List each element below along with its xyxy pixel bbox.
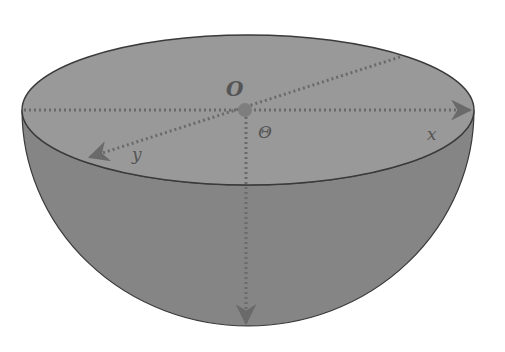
- origin-label: O: [226, 77, 244, 101]
- y-axis-label: y: [131, 144, 142, 164]
- angle-label: Θ: [258, 122, 272, 142]
- x-axis-label: x: [427, 124, 437, 144]
- origin-point: [238, 103, 252, 117]
- hemisphere-diagram: O Θ x y: [0, 0, 505, 352]
